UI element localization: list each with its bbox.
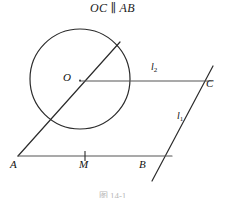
line-l1-through-B [152, 66, 213, 181]
circle-O [30, 29, 130, 129]
point-label-C: C [206, 78, 213, 89]
line-label-l2: l2 [151, 62, 157, 72]
figure-caption: 图 14-1 [0, 189, 225, 198]
point-label-O: O [63, 72, 71, 83]
point-O-dot [79, 80, 81, 82]
point-label-M: M [79, 159, 88, 170]
line-label-l2-sub: 2 [154, 66, 158, 74]
point-label-A: A [10, 159, 17, 170]
point-label-B: B [139, 159, 146, 170]
line-l1-through-A [18, 42, 120, 156]
geometry-figure-page: OC ∥ AB O A M B C l2 l1 图 14-1 [0, 0, 225, 198]
line-label-l1: l1 [177, 111, 183, 121]
line-label-l1-sub: 1 [180, 115, 184, 123]
geometry-diagram [0, 0, 225, 198]
